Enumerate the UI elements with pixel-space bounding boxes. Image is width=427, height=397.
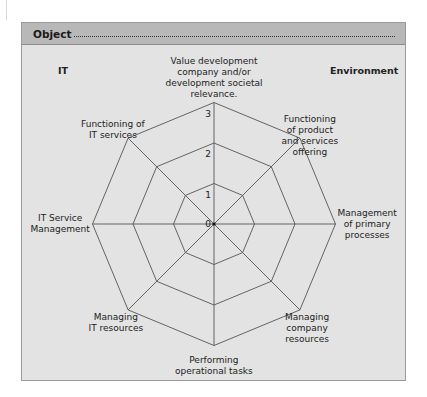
axis-label-functioning-it-services: Functioning ofIT services (81, 119, 145, 141)
axis-label-line: IT resources (89, 323, 144, 334)
radar-tick-labels: 0123 (205, 109, 211, 230)
axis-label-value-development: Value developmentcompany and/ordevelopme… (166, 56, 263, 100)
axis-label-line: Functioning (282, 114, 339, 125)
axis-label-line: relevance. (166, 89, 263, 100)
axis-label-line: Value development (166, 56, 263, 67)
axis-label-it-service-management: IT ServiceManagement (31, 213, 90, 235)
axis-label-line: Managing (89, 312, 144, 323)
spoke-managing-company (214, 224, 300, 310)
axis-label-line: Managing (285, 312, 329, 323)
axis-label-line: resources (285, 334, 329, 345)
tick-label-1: 1 (205, 190, 211, 200)
axis-label-line: IT Service (31, 213, 90, 224)
spoke-managing-it-resources (128, 224, 214, 310)
axis-label-line: Performing (175, 355, 253, 366)
axis-label-line: offering (282, 147, 339, 158)
axis-label-management-primary: Managementof primaryprocesses (338, 208, 397, 241)
axis-label-line: company and/or (166, 67, 263, 78)
corner-label-it: IT (58, 65, 68, 76)
axis-label-line: IT services (81, 130, 145, 141)
axis-label-line: and services (282, 136, 339, 147)
corner-label-environment: Environment (330, 65, 398, 76)
axis-label-line: operational tasks (175, 366, 253, 377)
tick-label-2: 2 (205, 149, 211, 159)
tick-label-0: 0 (205, 219, 211, 229)
axis-label-line: company (285, 323, 329, 334)
axis-label-line: of primary (338, 219, 397, 230)
axis-label-line: development societal (166, 78, 263, 89)
axis-label-line: Management (338, 208, 397, 219)
axis-label-line: of product (282, 125, 339, 136)
axis-label-managing-company: Managingcompanyresources (285, 312, 329, 345)
spoke-functioning-it-services (128, 138, 214, 224)
tick-label-3: 3 (205, 109, 211, 119)
axis-label-line: Functioning of (81, 119, 145, 130)
axis-label-managing-it-resources: ManagingIT resources (89, 312, 144, 334)
axis-label-line: processes (338, 230, 397, 241)
axis-label-line: Management (31, 224, 90, 235)
center-dot (212, 222, 215, 225)
axis-label-functioning-product: Functioningof productand servicesofferin… (282, 114, 339, 158)
axis-label-performing-operational: Performingoperational tasks (175, 355, 253, 377)
